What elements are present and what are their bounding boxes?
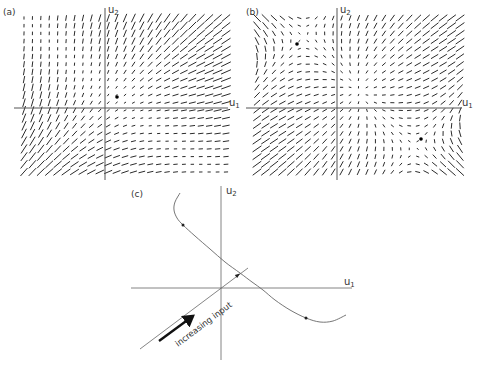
slope-segment: [332, 132, 335, 136]
slope-segment: [391, 87, 395, 88]
slope-segment: [358, 147, 359, 151]
slope-segment: [189, 30, 196, 37]
slope-segment: [148, 62, 152, 66]
slope-segment: [374, 87, 376, 88]
slope-segment: [281, 24, 284, 28]
slope-segment: [223, 117, 230, 119]
slope-segment: [340, 124, 342, 127]
slope-segment: [358, 16, 360, 21]
slope-segment: [431, 39, 438, 44]
slope-segment: [349, 132, 351, 136]
slope-segment: [189, 38, 197, 44]
slope-segment: [441, 154, 445, 159]
slope-segment: [107, 117, 110, 119]
panel-c: (c) u2 u1 increasing input: [131, 185, 355, 360]
slope-segment: [39, 114, 42, 121]
slope-segment: [133, 110, 135, 111]
slope-segment: [297, 79, 301, 80]
slope-segment: [64, 131, 68, 137]
slope-segment: [273, 39, 275, 43]
slope-segment: [98, 132, 102, 135]
slope-segment: [99, 39, 100, 44]
slope-segment: [305, 94, 310, 96]
slope-segment: [123, 14, 126, 22]
slope-segment: [254, 108, 260, 113]
slope-segment: [262, 169, 270, 175]
slope-segment: [366, 63, 368, 66]
slope-segment: [458, 85, 463, 90]
slope-segment: [399, 71, 403, 73]
slope-segment: [65, 100, 67, 105]
slope-segment: [374, 63, 376, 66]
slope-segment: [205, 86, 213, 89]
slope-segment: [30, 129, 34, 137]
slope-segment: [253, 146, 261, 152]
slope-segment: [417, 133, 419, 134]
slope-segment: [164, 62, 169, 66]
slope-segment: [113, 171, 120, 174]
slope-segment: [99, 109, 101, 112]
slope-segment: [205, 30, 213, 36]
slope-segment: [297, 117, 303, 120]
slope-segment: [332, 95, 335, 96]
slope-segment: [279, 131, 286, 135]
slope-segment: [255, 85, 259, 90]
slope-segment: [80, 139, 85, 143]
slope-segment: [358, 39, 359, 43]
slope-segment: [442, 124, 443, 128]
slope-segment: [141, 110, 143, 111]
slope-segment: [314, 132, 319, 136]
slope-segment: [254, 116, 261, 121]
slope-segment: [221, 78, 230, 82]
slope-segment: [173, 102, 178, 103]
slope-segment: [407, 15, 412, 21]
slope-segment: [148, 46, 152, 52]
slope-segment: [173, 86, 179, 88]
slope-segment: [442, 116, 444, 120]
slope-segment: [29, 168, 36, 175]
slope-segment: [39, 130, 43, 138]
slope-segment: [448, 70, 454, 74]
slope-segment: [305, 132, 310, 136]
slope-segment: [305, 109, 310, 111]
slope-segment: [263, 85, 267, 89]
slope-segment: [271, 101, 277, 105]
curve-markers: [182, 224, 308, 320]
slope-segment: [82, 15, 83, 21]
slope-segment: [296, 154, 302, 159]
slope-segment: [116, 110, 118, 111]
slope-segment: [49, 92, 50, 98]
slope-segment: [425, 133, 427, 135]
slope-segment: [272, 78, 276, 81]
slope-segment: [189, 78, 196, 81]
slope-segment: [40, 69, 41, 74]
slope-segment: [392, 163, 394, 166]
slope-segment: [173, 78, 179, 81]
slope-segment: [340, 117, 342, 120]
slope-segment: [198, 118, 204, 119]
slope-segment: [315, 17, 317, 19]
slope-segment: [213, 46, 222, 51]
slope-segment: [74, 78, 75, 81]
slope-segment: [415, 71, 420, 74]
slope-segment: [124, 78, 126, 81]
slope-segment: [197, 30, 205, 36]
slope-segment: [156, 172, 161, 173]
slope-segment: [23, 91, 25, 98]
slope-segment: [116, 78, 117, 80]
slope-segment: [164, 70, 169, 73]
slope-segment: [280, 78, 284, 81]
slope-segment: [88, 147, 94, 151]
slope-segment: [222, 109, 229, 111]
slope-segment: [215, 133, 221, 134]
slope-segment: [181, 110, 186, 111]
slope-segment: [298, 64, 301, 65]
slope-segment: [108, 87, 109, 89]
slope-segment: [124, 102, 125, 103]
slope-segment: [132, 102, 134, 103]
slope-segment: [40, 92, 42, 98]
slope-segment: [307, 25, 309, 26]
slope-segment: [181, 78, 187, 81]
slope-segment: [262, 116, 269, 120]
slope-segment: [89, 132, 94, 135]
